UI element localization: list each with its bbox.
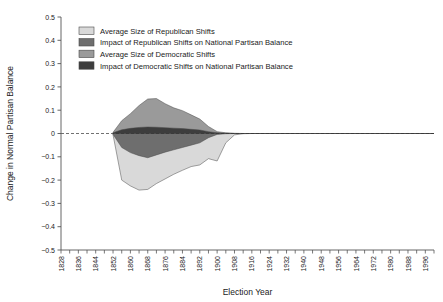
y-axis-tick-label: −0.3 <box>41 200 55 207</box>
legend-item: Impact of Democratic Shifts on National … <box>79 62 293 71</box>
legend-item: Average Size of Democratic Shifts <box>79 50 215 59</box>
y-axis-tick-label: 0 <box>51 130 55 137</box>
x-axis-tick-label: 1876 <box>162 256 169 272</box>
legend-swatch <box>79 27 94 34</box>
x-axis-tick-label: 1844 <box>92 256 99 272</box>
y-axis-tick-label: 0.3 <box>45 60 55 67</box>
x-axis-tick-label: 1828 <box>58 256 65 272</box>
legend-label: Impact of Republican Shifts on National … <box>100 38 292 47</box>
x-axis-tick-label: 1964 <box>353 256 360 272</box>
legend-label: Impact of Democratic Shifts on National … <box>100 62 293 71</box>
y-axis-tick-label: −0.5 <box>41 247 55 254</box>
y-axis-tick-label: 0.2 <box>45 84 55 91</box>
legend-label: Average Size of Republican Shifts <box>100 27 215 36</box>
x-axis-tick-label: 1972 <box>370 256 377 272</box>
x-axis-tick-label: 1940 <box>300 256 307 272</box>
x-axis-tick-label: 1996 <box>422 256 429 272</box>
chart-container: 0.50.40.30.20.10−0.1−0.2−0.3−0.4−0.51828… <box>0 0 443 302</box>
x-axis-tick-label: 1852 <box>110 256 117 272</box>
y-axis-tick-label: 0.1 <box>45 107 55 114</box>
y-axis-tick-label: 0.5 <box>45 14 55 21</box>
x-axis-tick-label: 1860 <box>127 256 134 272</box>
y-axis-tick-label: −0.2 <box>41 177 55 184</box>
y-axis-tick-label: −0.4 <box>41 223 55 230</box>
legend-swatch <box>79 50 94 57</box>
legend-item: Impact of Republican Shifts on National … <box>79 38 292 47</box>
x-axis-tick-label: 1956 <box>335 256 342 272</box>
partisan-shift-area-chart: 0.50.40.30.20.10−0.1−0.2−0.3−0.4−0.51828… <box>0 0 443 302</box>
x-axis-tick-label: 1900 <box>214 256 221 272</box>
x-axis-tick-label: 1924 <box>266 256 273 272</box>
legend-item: Average Size of Republican Shifts <box>79 27 215 36</box>
series-area-1 <box>113 127 434 134</box>
x-axis-tick-label: 1980 <box>387 256 394 272</box>
x-axis-tick-label: 1948 <box>318 256 325 272</box>
x-axis-tick-label: 1868 <box>144 256 151 272</box>
y-axis-title: Change in Normal Partisan Balance <box>5 66 15 201</box>
x-axis-tick-label: 1908 <box>231 256 238 272</box>
legend-swatch <box>79 62 94 69</box>
x-axis-title: Election Year <box>223 287 273 297</box>
y-axis-tick-label: 0.4 <box>45 37 55 44</box>
legend-label: Average Size of Democratic Shifts <box>100 50 215 59</box>
x-axis-tick-label: 1988 <box>405 256 412 272</box>
x-axis-tick-label: 1836 <box>75 256 82 272</box>
y-axis-tick-label: −0.1 <box>41 153 55 160</box>
legend-swatch <box>79 39 94 46</box>
x-axis-tick-label: 1916 <box>248 256 255 272</box>
x-axis-tick-label: 1932 <box>283 256 290 272</box>
x-axis-tick-label: 1892 <box>196 256 203 272</box>
x-axis-tick-label: 1884 <box>179 256 186 272</box>
